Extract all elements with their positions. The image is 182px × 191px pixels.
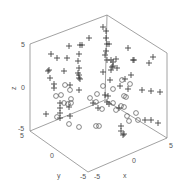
y-axis-label: y: [57, 172, 61, 180]
plus-marker: [100, 69, 106, 75]
z-tick-neg5: -5: [18, 125, 24, 132]
plus-marker: [90, 100, 96, 106]
plus-marker: [75, 58, 81, 64]
x-tick-0: 0: [132, 157, 136, 164]
plus-marker: [139, 87, 145, 93]
plus-marker: [103, 48, 109, 54]
y-tick-neg5: -5: [80, 173, 86, 180]
circle-marker: [55, 115, 60, 120]
plus-marker: [100, 24, 106, 30]
x-axis-ticks: -5 0 5 x: [94, 142, 173, 180]
plus-marker: [51, 85, 57, 91]
series-plus-markers: [43, 24, 163, 138]
circle-marker: [101, 84, 106, 89]
plus-marker: [43, 111, 49, 117]
plus-marker: [102, 92, 108, 98]
plus-marker: [66, 43, 72, 49]
plus-marker: [61, 68, 67, 74]
plus-marker: [86, 35, 92, 41]
plus-marker: [45, 68, 51, 74]
x-axis-label: x: [123, 172, 127, 179]
plus-marker: [103, 35, 109, 41]
plus-marker: [48, 51, 54, 57]
plus-marker: [77, 76, 83, 82]
plus-marker: [76, 87, 82, 93]
plus-marker: [157, 89, 163, 95]
plus-marker: [146, 60, 152, 66]
plus-marker: [150, 54, 156, 60]
axes-box: [30, 15, 167, 172]
plus-marker: [131, 57, 137, 63]
plus-marker: [113, 56, 119, 62]
circle-marker: [120, 78, 125, 83]
plus-marker: [105, 93, 111, 99]
plus-marker: [76, 75, 82, 81]
plus-marker: [148, 117, 154, 123]
circle-marker: [68, 88, 73, 93]
circle-marker: [54, 94, 59, 99]
y-axis-ticks: 5 0 -5 y: [20, 132, 86, 180]
plus-marker: [117, 83, 123, 89]
circle-marker: [59, 93, 64, 98]
z-axis-ticks: 5 0 -5 z: [10, 41, 25, 132]
plus-marker: [109, 64, 115, 70]
plus-marker: [64, 55, 70, 61]
plus-marker: [46, 67, 52, 73]
plus-marker: [125, 86, 131, 92]
circle-marker: [77, 125, 82, 130]
circle-marker: [122, 105, 127, 110]
x-tick-neg5: -5: [94, 173, 100, 180]
y-tick-0: 0: [50, 152, 54, 159]
plus-marker: [54, 55, 60, 61]
circle-marker: [125, 114, 130, 119]
z-axis-label: z: [10, 86, 17, 90]
x-tick-5: 5: [169, 142, 173, 149]
circle-marker: [97, 124, 102, 129]
plus-marker: [66, 104, 72, 110]
plus-marker: [76, 65, 82, 71]
circle-marker: [134, 111, 139, 116]
circle-marker: [63, 83, 68, 88]
y-tick-5: 5: [20, 132, 24, 139]
z-tick-0: 0: [21, 84, 25, 91]
plus-marker: [125, 45, 131, 51]
circle-marker: [128, 82, 133, 87]
plus-marker: [103, 28, 109, 34]
circle-marker: [100, 107, 105, 112]
circle-marker: [111, 87, 116, 92]
plus-marker: [142, 117, 148, 123]
plus-marker: [128, 72, 134, 78]
scatter3d-plot: 5 0 -5 z 5 0 -5 y -5 0 5 x: [0, 0, 182, 191]
circle-marker: [95, 92, 100, 97]
circle-marker: [67, 122, 72, 127]
circle-marker: [88, 96, 93, 101]
plus-marker: [148, 88, 154, 94]
plus-marker: [107, 77, 113, 83]
plus-marker: [76, 51, 82, 57]
plus-marker: [57, 100, 63, 106]
plus-marker: [121, 131, 127, 137]
plus-marker: [47, 75, 53, 81]
circle-marker: [127, 119, 132, 124]
plus-marker: [122, 76, 128, 82]
plus-marker: [155, 120, 161, 126]
plus-marker: [67, 82, 73, 88]
z-tick-5: 5: [21, 41, 25, 48]
